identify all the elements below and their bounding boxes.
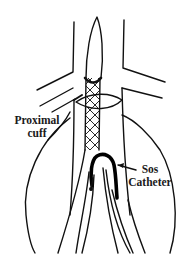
stent-graft-mesh	[70, 50, 110, 170]
delivery-sheath	[85, 17, 102, 83]
proximal-cuff-label-line1: Proximal	[8, 114, 66, 127]
proximal-cuff-label: Proximal cuff	[8, 114, 66, 140]
sos-catheter-label-line1: Sos	[124, 163, 176, 176]
proximal-cuff-label-line2: cuff	[8, 127, 66, 140]
sos-catheter-label-line2: Catheter	[124, 176, 176, 189]
sos-catheter-label: Sos Catheter	[124, 163, 176, 189]
